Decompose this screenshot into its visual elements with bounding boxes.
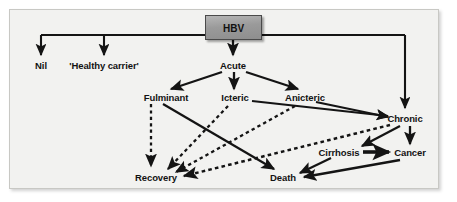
node-acute: Acute (220, 60, 246, 71)
node-chronic: Chronic (387, 113, 422, 124)
hbv-node-label: HBV (223, 22, 244, 33)
node-recovery: Recovery (135, 172, 177, 183)
node-death: Death (270, 172, 296, 183)
node-cirrhosis: Cirrhosis (319, 147, 360, 158)
node-icteric: Icteric (221, 92, 248, 103)
node-cancer: Cancer (394, 147, 426, 158)
figure-root: HBV Nil 'Healthy carrier' Acute Fulminan… (0, 0, 457, 202)
node-fulminant: Fulminant (144, 92, 189, 103)
hbv-node: HBV (205, 15, 262, 40)
node-healthy-carrier: 'Healthy carrier' (69, 60, 138, 71)
node-nil: Nil (35, 60, 47, 71)
node-anicteric: Anicteric (285, 92, 325, 103)
